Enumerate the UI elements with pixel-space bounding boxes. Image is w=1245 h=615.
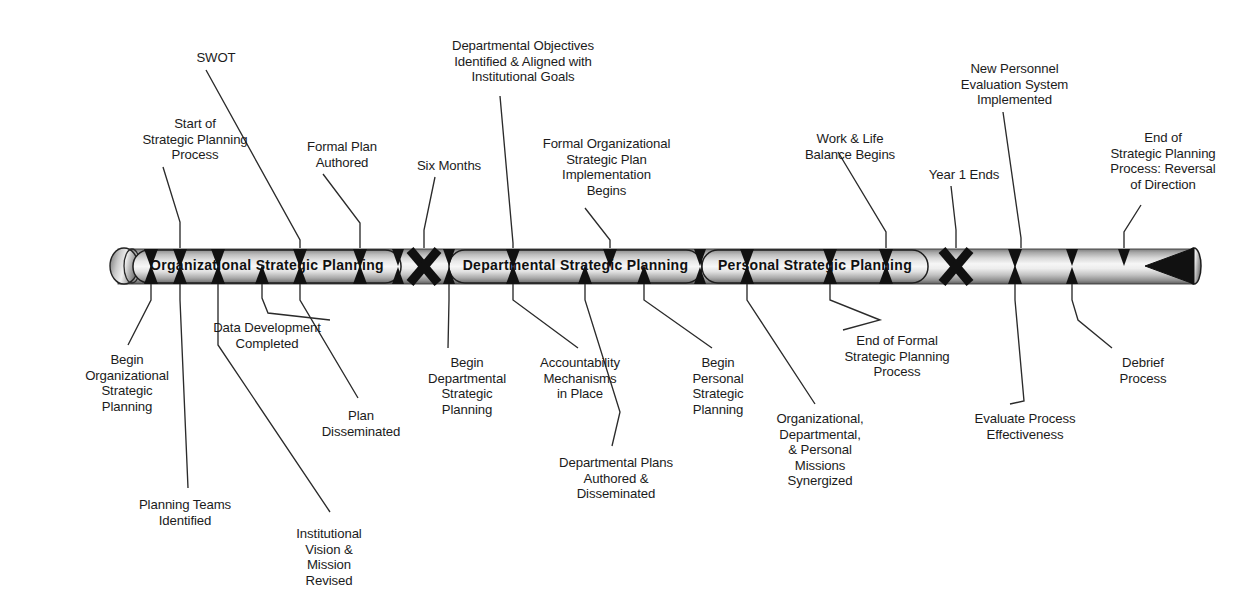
leader-work-life-balance xyxy=(838,152,886,248)
label-end-of-formal-strategic-planning-process: End of Formal Strategic Planning Process xyxy=(833,333,961,380)
label-accountability-mechanisms-in-place: Accountability Mechanisms in Place xyxy=(525,355,635,402)
label-institutional-vision-mission-revised: Institutional Vision & Mission Revised xyxy=(283,526,375,588)
leader-six-months xyxy=(424,177,435,248)
label-six-months: Six Months xyxy=(406,158,492,174)
label-departmental-plans-authored-disseminated: Departmental Plans Authored & Disseminat… xyxy=(545,455,687,502)
leader-formal-plan-authored xyxy=(323,174,360,248)
leader-start-of-process xyxy=(163,167,180,248)
label-missions-synergized: Organizational, Departmental, & Personal… xyxy=(765,411,875,489)
label-evaluate-process-effectiveness: Evaluate Process Effectiveness xyxy=(961,411,1089,442)
leader-departmental-objectives xyxy=(500,96,513,248)
label-begin-personal-strategic-planning: Begin Personal Strategic Planning xyxy=(675,355,761,417)
leader-year-1-ends xyxy=(951,186,956,248)
leader-formal-org-plan-implementation xyxy=(585,208,610,248)
label-swot: SWOT xyxy=(176,50,256,66)
label-plan-disseminated: Plan Disseminated xyxy=(311,408,411,439)
leader-end-reversal xyxy=(1124,205,1141,248)
label-formal-plan-authored: Formal Plan Authored xyxy=(290,139,394,170)
leader-begin-personal xyxy=(644,284,712,348)
label-work-and-life-balance-begins: Work & Life Balance Begins xyxy=(795,131,905,162)
leader-accountability-mechanisms xyxy=(513,284,578,348)
segment-label-departmental: Departmental Strategic Planning xyxy=(449,257,702,273)
leader-end-of-formal-process xyxy=(830,284,880,330)
label-debrief-process: Debrief Process xyxy=(1103,355,1183,386)
label-begin-departmental-strategic-planning: Begin Departmental Strategic Planning xyxy=(417,355,517,417)
leader-begin-organizational xyxy=(128,284,151,345)
label-departmental-objectives-aligned: Departmental Objectives Identified & Ali… xyxy=(437,38,609,85)
label-data-development-completed: Data Development Completed xyxy=(201,320,333,351)
segment-label-organizational: Organizational Strategic Planning xyxy=(133,257,401,273)
leader-evaluate-process-effectiveness xyxy=(1010,284,1024,404)
label-begin-organizational-strategic-planning: Begin Organizational Strategic Planning xyxy=(72,352,182,414)
leader-begin-departmental xyxy=(448,284,449,348)
label-formal-organizational-plan-implementation: Formal Organizational Strategic Plan Imp… xyxy=(530,136,683,198)
label-new-personnel-evaluation-system: New Personnel Evaluation System Implemen… xyxy=(947,61,1082,108)
segment-label-personal: Personal Strategic Planning xyxy=(702,257,928,273)
label-end-of-strategic-planning-reversal: End of Strategic Planning Process: Rever… xyxy=(1095,130,1231,192)
timeline-diagram: Organizational Strategic Planning Depart… xyxy=(0,0,1245,615)
leader-data-development-completed xyxy=(262,284,330,320)
leader-debrief-process xyxy=(1072,284,1112,348)
label-year-1-ends: Year 1 Ends xyxy=(919,167,1009,183)
label-start-of-strategic-planning-process: Start of Strategic Planning Process xyxy=(130,116,260,163)
label-planning-teams-identified: Planning Teams Identified xyxy=(127,497,243,528)
